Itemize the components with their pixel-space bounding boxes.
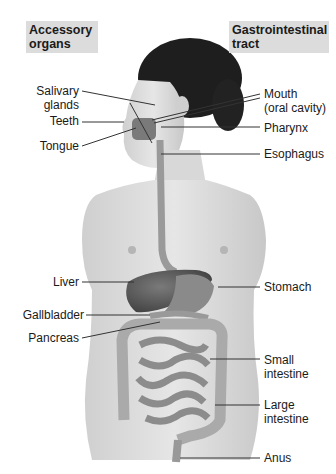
label-line: Stomach (264, 280, 311, 294)
heading-accessory-organs: Accessory organs (26, 21, 98, 53)
label-line: glands (28, 98, 79, 112)
label-tongue: Tongue (28, 139, 79, 153)
label-line: Large (264, 398, 309, 412)
label-line: Tongue (40, 139, 79, 153)
label-line: Small (264, 353, 309, 367)
label-small-intestine: Small intestine (264, 353, 309, 381)
heading-line: Accessory (29, 23, 95, 37)
label-gallbladder: Gallbladder (6, 308, 84, 322)
label-pharynx: Pharynx (264, 121, 308, 135)
heading-line: organs (29, 37, 95, 51)
heading-line: Gastrointestinal (232, 23, 326, 37)
label-esophagus: Esophagus (264, 147, 324, 161)
label-salivary-glands: Salivary glands (28, 84, 79, 112)
label-mouth: Mouth (oral cavity) (264, 87, 326, 115)
label-anus: Anus (264, 451, 291, 465)
heading-line: tract (232, 37, 326, 51)
label-line: intestine (264, 412, 309, 426)
label-line: intestine (264, 367, 309, 381)
label-line: Mouth (264, 87, 326, 101)
label-line: Liver (53, 275, 79, 289)
label-pancreas: Pancreas (20, 331, 79, 345)
label-line: Pancreas (28, 331, 79, 345)
label-liver: Liver (28, 275, 79, 289)
label-line: (oral cavity) (264, 101, 326, 115)
label-line: Pharynx (264, 121, 308, 135)
label-line: Salivary (28, 84, 79, 98)
heading-gastrointestinal-tract: Gastrointestinal tract (229, 21, 329, 53)
label-line: Gallbladder (23, 308, 84, 322)
label-teeth: Teeth (28, 114, 79, 128)
label-line: Teeth (50, 114, 79, 128)
label-large-intestine: Large intestine (264, 398, 309, 426)
label-stomach: Stomach (264, 280, 311, 294)
label-line: Esophagus (264, 147, 324, 161)
label-line: Anus (264, 451, 291, 465)
